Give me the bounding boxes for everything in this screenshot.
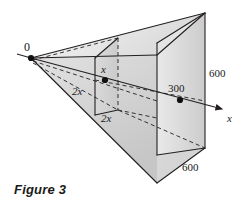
figure-3-illustration: 0 x 2x 2x 300 600 600 x Figure 3 bbox=[0, 0, 246, 207]
figure-caption: Figure 3 bbox=[14, 182, 66, 197]
point-300 bbox=[177, 97, 183, 103]
label-height-2x-left: 2x bbox=[72, 86, 82, 97]
geometry-diagram bbox=[0, 0, 246, 207]
label-origin: 0 bbox=[24, 41, 30, 53]
x-point bbox=[102, 77, 108, 83]
label-depth-600-bottom: 600 bbox=[182, 162, 199, 173]
label-height-600-right: 600 bbox=[209, 68, 226, 79]
label-distance-300: 300 bbox=[168, 83, 185, 94]
label-axis-x: x bbox=[227, 113, 232, 124]
label-cross-section-x: x bbox=[101, 64, 106, 75]
origin-point bbox=[28, 55, 34, 61]
label-depth-2x-bottom: 2x bbox=[101, 113, 111, 124]
